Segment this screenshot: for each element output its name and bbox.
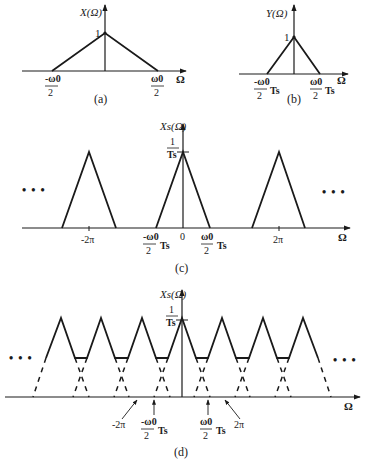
svg-text:Ts: Ts: [216, 425, 226, 436]
panel-caption: (c): [175, 261, 188, 275]
x-axis-label: Ω: [344, 400, 353, 412]
svg-text:-ω0: -ω0: [254, 76, 270, 87]
panel-c: Xs(Ω) 1 Ts • • • • • • Ω -2π -ω0 2 Ts 0 …: [22, 120, 350, 275]
panel-a: X(Ω) 1 Ω -ω0 2 ω0 2 (a): [22, 5, 186, 106]
tick-w0-half-ts: ω0 2 Ts: [201, 231, 227, 256]
x-axis-label: Ω: [337, 74, 346, 86]
svg-text:Ts: Ts: [158, 425, 168, 436]
svg-text:ω0: ω0: [151, 73, 163, 84]
svg-text:Ts: Ts: [270, 85, 280, 96]
tick-neg-w0-half-ts: -ω0 2 Ts: [143, 231, 170, 256]
y-axis-label: Y(Ω): [266, 7, 288, 20]
svg-text:Ts: Ts: [325, 85, 335, 96]
svg-text:2: 2: [203, 430, 208, 441]
svg-text:2: 2: [257, 90, 262, 101]
peak-marker: [292, 35, 295, 38]
svg-text:ω0: ω0: [200, 416, 212, 427]
svg-text:Ts: Ts: [167, 149, 177, 160]
ellipsis-left: • • •: [22, 183, 46, 197]
sampling-spectra-figure: X(Ω) 1 Ω -ω0 2 ω0 2 (a) Y(Ω) 1 Ω -ω0 2 T…: [0, 0, 370, 460]
tick-neg-2pi: -2π: [81, 234, 94, 245]
ellipsis-left: • • •: [9, 351, 33, 365]
x-axis-label: Ω: [338, 231, 347, 243]
tick-neg-2pi: -2π: [112, 419, 125, 430]
tick-neg-w0-half: -ω0 2: [45, 73, 61, 98]
tick-w0-half: ω0 2: [151, 73, 164, 98]
tick-2pi: 2π: [234, 419, 244, 430]
peak-label: 1 Ts: [166, 304, 178, 328]
svg-text:ω0: ω0: [201, 231, 213, 242]
tick-w0-half-ts: ω0 2 Ts: [310, 76, 335, 101]
panel-caption: (a): [94, 92, 107, 106]
svg-text:ω0: ω0: [310, 76, 322, 87]
spectrum-replica-left: [62, 152, 116, 228]
svg-text:Ts: Ts: [217, 240, 227, 251]
panel-b: Y(Ω) 1 Ω -ω0 2 Ts ω0 2 Ts (b): [239, 5, 348, 106]
peak-label: 1 Ts: [167, 136, 179, 160]
svg-text:Ts: Ts: [166, 317, 176, 328]
svg-text:2: 2: [154, 87, 159, 98]
tick-w0-half-ts: ω0 2 Ts: [200, 416, 226, 441]
pointer-neg-2pi: [122, 400, 137, 419]
svg-text:1: 1: [169, 304, 174, 315]
spectrum-replica-right: [252, 152, 305, 228]
svg-text:2: 2: [313, 90, 318, 101]
svg-text:-ω0: -ω0: [141, 416, 157, 427]
tick-2pi: 2π: [273, 234, 283, 245]
peak-label: 1: [95, 27, 101, 39]
svg-text:2: 2: [48, 87, 53, 98]
y-axis-label: X(Ω): [79, 6, 102, 19]
svg-text:2: 2: [146, 245, 151, 256]
tick-zero: 0: [180, 231, 185, 242]
svg-text:1: 1: [170, 136, 175, 147]
peak-label: 1: [284, 31, 290, 43]
ellipsis-right: • • •: [322, 185, 346, 199]
y-axis-label: Xs(Ω): [159, 288, 187, 301]
tick-neg-w0-half-ts: -ω0 2 Ts: [141, 416, 168, 441]
panel-caption: (b): [287, 92, 301, 106]
tick-neg-w0-half-ts: -ω0 2 Ts: [254, 76, 280, 101]
ellipsis-right: • • •: [333, 353, 357, 367]
x-axis-label: Ω: [176, 73, 185, 85]
svg-text:-ω0: -ω0: [45, 73, 61, 84]
pointer-2pi: [225, 400, 240, 419]
panel-d: Xs(Ω) 1 Ts • • • • • • Ω -2π -ω0 2 Ts ω0…: [5, 288, 360, 459]
svg-text:Ts: Ts: [160, 240, 170, 251]
svg-text:2: 2: [144, 430, 149, 441]
svg-text:-ω0: -ω0: [143, 231, 159, 242]
y-axis-label: Xs(Ω): [159, 120, 187, 133]
svg-text:2: 2: [204, 245, 209, 256]
panel-caption: (d): [174, 445, 188, 459]
peak-marker: [103, 31, 106, 34]
